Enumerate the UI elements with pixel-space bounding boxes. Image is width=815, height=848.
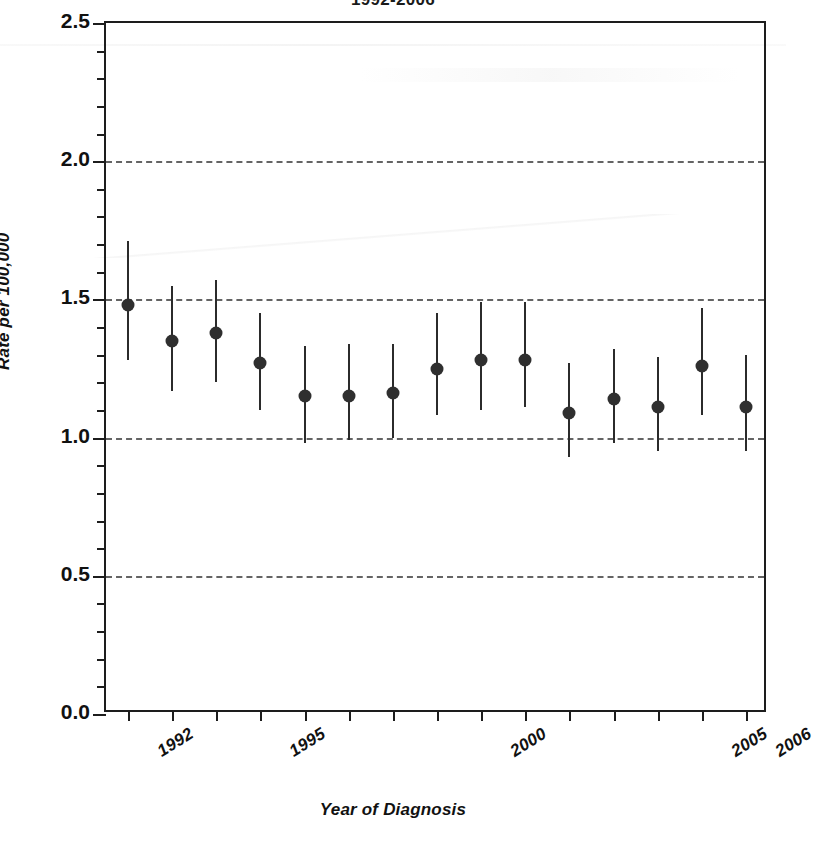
data-point xyxy=(210,326,223,339)
y-tick-minor xyxy=(97,603,106,605)
y-tick-minor xyxy=(97,106,106,108)
x-tick xyxy=(658,710,660,721)
x-tick xyxy=(393,710,395,721)
y-tick-minor xyxy=(97,134,106,136)
x-axis-title: Year of Diagnosis xyxy=(0,800,786,820)
y-tick-minor xyxy=(97,465,106,467)
gridline xyxy=(106,438,764,440)
y-tick-minor xyxy=(97,521,106,523)
x-tick-label: 2000 xyxy=(507,724,550,761)
x-tick xyxy=(569,710,571,721)
y-tick-minor xyxy=(97,548,106,550)
x-tick xyxy=(349,710,351,721)
y-tick-minor xyxy=(97,686,106,688)
x-tick xyxy=(525,710,527,721)
y-tick-label: 2.5 xyxy=(34,9,90,33)
y-tick-minor xyxy=(97,659,106,661)
y-tick-minor xyxy=(97,51,106,53)
y-tick-minor xyxy=(97,355,106,357)
y-tick-label: 1.5 xyxy=(34,285,90,309)
x-tick-label: 1992 xyxy=(154,724,197,761)
y-tick-minor xyxy=(97,382,106,384)
data-point xyxy=(563,406,576,419)
data-point xyxy=(298,390,311,403)
data-point xyxy=(739,401,752,414)
chart-title: 1992-2006 xyxy=(0,0,786,10)
y-tick-label: 1.0 xyxy=(34,424,90,448)
y-tick-major xyxy=(93,576,106,578)
y-tick-minor xyxy=(97,244,106,246)
data-point xyxy=(651,401,664,414)
plot-area xyxy=(104,21,766,712)
y-tick-minor xyxy=(97,272,106,274)
data-point xyxy=(386,387,399,400)
y-tick-minor xyxy=(97,493,106,495)
x-tick-label: 2005 xyxy=(728,724,771,761)
y-tick-minor xyxy=(97,189,106,191)
gridline xyxy=(106,299,764,301)
x-tick-label: 2006 xyxy=(772,724,815,761)
y-tick-major xyxy=(93,438,106,440)
data-point xyxy=(342,390,355,403)
x-tick xyxy=(481,710,483,721)
y-tick-major xyxy=(93,23,106,25)
data-point xyxy=(431,362,444,375)
x-tick xyxy=(216,710,218,721)
x-tick-label: 1995 xyxy=(286,724,329,761)
y-tick-minor xyxy=(97,216,106,218)
y-tick-minor xyxy=(97,327,106,329)
y-tick-minor xyxy=(97,410,106,412)
y-tick-label: 0.5 xyxy=(34,562,90,586)
data-point xyxy=(607,392,620,405)
y-tick-label: 0.0 xyxy=(34,700,90,724)
data-point xyxy=(695,359,708,372)
y-axis-title: Rate per 100,000 xyxy=(0,233,14,370)
y-tick-major xyxy=(93,161,106,163)
y-tick-minor xyxy=(97,631,106,633)
data-point xyxy=(166,334,179,347)
x-tick xyxy=(305,710,307,721)
data-point xyxy=(122,298,135,311)
x-tick xyxy=(702,710,704,721)
x-tick xyxy=(437,710,439,721)
gridline xyxy=(106,161,764,163)
gridline xyxy=(106,576,764,578)
data-point xyxy=(254,356,267,369)
y-tick-label: 2.0 xyxy=(34,147,90,171)
y-tick-major xyxy=(93,299,106,301)
x-tick xyxy=(128,710,130,721)
x-tick xyxy=(260,710,262,721)
data-point xyxy=(475,354,488,367)
x-tick xyxy=(172,710,174,721)
data-point xyxy=(519,354,532,367)
y-tick-major xyxy=(93,714,106,716)
x-tick xyxy=(614,710,616,721)
x-tick xyxy=(746,710,748,721)
y-tick-minor xyxy=(97,78,106,80)
y-axis-label-group: Rate per 100,000 xyxy=(0,0,104,712)
